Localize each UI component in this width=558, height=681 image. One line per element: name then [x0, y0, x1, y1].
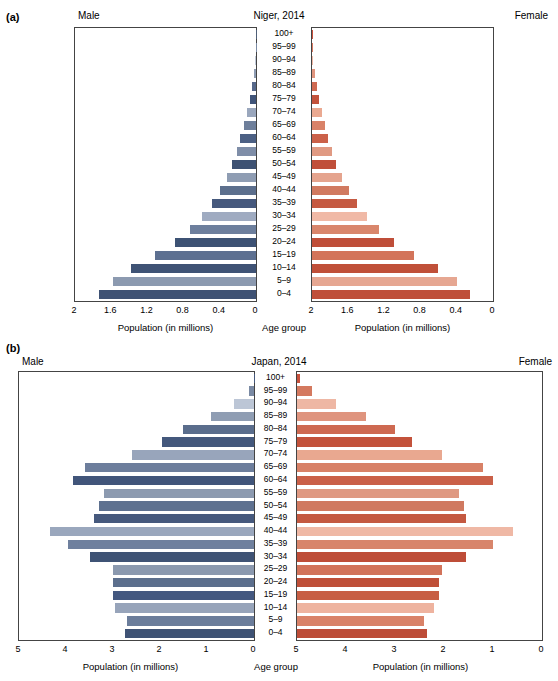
bar-male-19 [113, 277, 256, 286]
age-label-0: 100+ [257, 29, 311, 38]
bar-male-11 [227, 173, 256, 182]
age-label-12: 40–44 [257, 185, 311, 194]
bar-male-4 [252, 82, 256, 91]
bar-female-6 [297, 450, 442, 459]
age-label-15: 25–29 [257, 224, 311, 233]
bar-male-14 [202, 212, 256, 221]
female-plot-a [311, 27, 494, 302]
xtick-male-5: 0 [252, 305, 257, 315]
bar-male-17 [155, 251, 256, 260]
bar-female-9 [297, 489, 459, 498]
age-label-20: 0–4 [255, 628, 296, 637]
female-x-axis-a: 00.40.81.21.62 [311, 305, 494, 317]
xtick-female-4: 4 [342, 644, 347, 654]
age-label-9: 55–59 [257, 146, 311, 155]
xtick-female-2: 0.8 [413, 305, 426, 315]
male-plot-a [74, 27, 257, 302]
xtick-male-0: 5 [15, 644, 20, 654]
bar-female-4 [297, 425, 395, 434]
age-label-19: 5–9 [255, 615, 296, 624]
male-x-axis-b: 543210 [18, 644, 255, 656]
age-label-8: 60–64 [257, 133, 311, 142]
figure-page: (a) Male Female Niger, 2014 100+95–9990–… [0, 0, 558, 681]
age-label-19: 5–9 [257, 276, 311, 285]
bar-female-8 [297, 476, 493, 485]
bar-female-18 [297, 603, 434, 612]
bar-female-17 [312, 251, 414, 260]
bar-male-3 [254, 69, 256, 78]
age-label-3: 85–89 [257, 68, 311, 77]
female-axis-title-b: Population (in millions) [302, 661, 539, 672]
bar-male-13 [68, 540, 254, 549]
age-label-5: 75–79 [257, 94, 311, 103]
bar-male-17 [113, 591, 254, 600]
xtick-male-1: 1.6 [104, 305, 117, 315]
female-plot-b [296, 371, 543, 641]
bar-male-10 [99, 501, 254, 510]
bar-male-9 [237, 147, 256, 156]
bar-male-5 [250, 95, 256, 104]
age-group-title-b: Age group [249, 661, 303, 672]
xtick-female-3: 1.2 [377, 305, 390, 315]
bar-female-17 [297, 591, 439, 600]
age-label-1: 95–99 [255, 386, 296, 395]
bar-female-9 [312, 147, 332, 156]
bar-male-8 [240, 134, 256, 143]
bar-female-3 [297, 412, 366, 421]
bar-female-20 [297, 629, 427, 638]
bar-male-11 [94, 514, 254, 523]
xtick-female-1: 1 [489, 644, 494, 654]
age-label-4: 80–84 [255, 424, 296, 433]
bar-male-14 [90, 552, 255, 561]
bar-female-14 [312, 212, 367, 221]
bar-male-7 [85, 463, 254, 472]
xtick-female-0: 0 [538, 644, 543, 654]
bar-female-1 [297, 386, 312, 395]
xtick-male-0: 2 [71, 305, 76, 315]
xtick-male-2: 1.2 [140, 305, 153, 315]
bar-female-20 [312, 290, 470, 299]
age-label-6: 70–74 [255, 449, 296, 458]
xtick-male-5: 0 [250, 644, 255, 654]
age-label-5: 75–79 [255, 437, 296, 446]
bar-male-18 [131, 264, 256, 273]
bar-male-8 [73, 476, 254, 485]
bar-male-6 [132, 450, 254, 459]
xtick-female-5: 5 [293, 644, 298, 654]
age-label-6: 70–74 [257, 107, 311, 116]
age-label-14: 30–34 [257, 211, 311, 220]
age-label-17: 15–19 [255, 590, 296, 599]
xtick-female-3: 3 [391, 644, 396, 654]
female-x-axis-b: 012345 [296, 644, 543, 656]
bar-male-5 [162, 437, 254, 446]
bar-male-2 [255, 56, 256, 65]
bar-female-16 [297, 578, 439, 587]
bar-female-14 [297, 552, 466, 561]
age-label-13: 35–39 [257, 198, 311, 207]
male-plot-b [18, 371, 255, 641]
bar-male-1 [249, 386, 254, 395]
age-label-16: 20–24 [257, 237, 311, 246]
bar-female-15 [297, 565, 442, 574]
xtick-female-2: 2 [440, 644, 445, 654]
bar-male-16 [113, 578, 254, 587]
bar-female-15 [312, 225, 379, 234]
bar-female-8 [312, 134, 328, 143]
age-label-8: 60–64 [255, 475, 296, 484]
bar-male-19 [127, 616, 254, 625]
age-label-0: 100+ [255, 373, 296, 382]
age-label-10: 50–54 [255, 501, 296, 510]
bar-male-2 [234, 399, 254, 408]
bar-male-16 [175, 238, 256, 247]
bar-female-12 [312, 186, 349, 195]
bar-male-20 [125, 629, 254, 638]
bar-male-9 [104, 489, 254, 498]
bar-female-11 [297, 514, 466, 523]
age-group-axis-b: 100+95–9990–9485–8980–8475–7970–7465–696… [255, 371, 296, 641]
bar-female-2 [297, 399, 336, 408]
age-label-18: 10–14 [257, 263, 311, 272]
bar-female-5 [297, 437, 412, 446]
age-label-7: 65–69 [257, 120, 311, 129]
age-group-axis-a: 100+95–9990–9485–8980–8475–7970–7465–696… [257, 27, 311, 302]
bar-female-0 [297, 374, 300, 383]
